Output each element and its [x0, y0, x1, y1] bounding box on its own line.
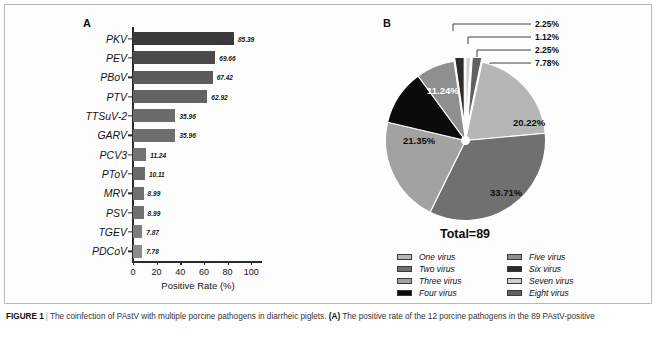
bar-row: PEV69.66 — [133, 48, 257, 67]
bar-category-label: PToV — [102, 168, 127, 180]
x-axis-tick — [204, 261, 205, 265]
bar-value-label: 11.24 — [150, 151, 166, 158]
bar-chart-x-axis — [132, 261, 262, 263]
legend-item[interactable]: One virus — [397, 251, 502, 262]
bar-row: PBoV67.42 — [133, 68, 257, 87]
bar-category-label: PTV — [107, 91, 127, 103]
bar-row: PDCoV7.78 — [133, 242, 257, 261]
bar-category-label: GARV — [97, 129, 127, 141]
bar-value-label: 67.42 — [217, 74, 233, 81]
x-axis-tick-label: 20 — [152, 267, 162, 277]
x-axis-tick-label: 80 — [223, 267, 233, 277]
bar-value-label: 35.96 — [179, 132, 195, 139]
bar-value-label: 7.78 — [146, 248, 159, 255]
bar-row: TTSuV-235.96 — [133, 106, 257, 125]
bar-row: PCV311.24 — [133, 145, 257, 164]
legend-label: Two virus — [419, 264, 455, 274]
legend-label: Three virus — [419, 276, 462, 286]
x-axis-tick — [180, 261, 181, 265]
pie-total-label: Total=89 — [440, 227, 490, 241]
panel-b-letter: B — [383, 17, 391, 29]
legend-item[interactable]: Six virus — [507, 263, 612, 274]
legend-swatch — [397, 254, 412, 260]
pie-slice-percent: 33.71% — [490, 187, 522, 198]
bar-category-label: TTSuV-2 — [85, 110, 127, 122]
bar — [133, 187, 144, 200]
legend-item[interactable]: Two virus — [397, 263, 502, 274]
caption-part-a-label: (A) — [329, 312, 340, 321]
bar-row: MRV8.99 — [133, 184, 257, 203]
bar-row: PTV62.92 — [133, 87, 257, 106]
bar-value-label: 7.87 — [146, 228, 159, 235]
caption-part-a-text: The positive rate of the 12 porcine path… — [342, 312, 594, 321]
bar — [133, 245, 142, 258]
pie-callout-label: 2.25% — [535, 19, 559, 29]
bar — [133, 148, 146, 161]
bar — [133, 167, 145, 180]
legend-item[interactable]: Eight virus — [507, 287, 612, 298]
figure-caption: FIGURE 1|The coinfection of PAstV with m… — [6, 312, 646, 322]
x-axis-tick-label: 40 — [175, 267, 185, 277]
pie-callout-leader-line — [477, 50, 531, 57]
x-axis-tick-label: 100 — [244, 267, 259, 277]
bar-chart-x-axis-label: Positive Rate (%) — [161, 280, 234, 291]
pie-slice-percent: 20.22% — [513, 117, 545, 128]
pie-legend: One virusFive virusTwo virusSix virusThr… — [397, 251, 612, 298]
bar — [133, 32, 234, 45]
x-axis-tick-label: 60 — [199, 267, 209, 277]
pie-center-hub — [461, 136, 470, 145]
bar-value-label: 69.66 — [219, 54, 235, 61]
legend-label: Seven virus — [529, 276, 573, 286]
caption-label: FIGURE 1 — [6, 312, 44, 321]
legend-label: Five virus — [529, 252, 565, 262]
bar-row: PSV8.99 — [133, 203, 257, 222]
pie-callout-label: 2.25% — [535, 45, 559, 55]
panel-a-bar-chart: A PKV85.39PEV69.66PBoV67.42PTV62.92TTSuV… — [5, 5, 335, 305]
x-axis-tick — [251, 261, 252, 265]
bar — [133, 71, 213, 84]
x-axis-tick — [157, 261, 158, 265]
legend-label: Six virus — [529, 264, 561, 274]
bar-category-label: PCV3 — [100, 149, 127, 161]
bar-category-label: PKV — [106, 33, 127, 45]
legend-swatch — [507, 266, 522, 272]
legend-swatch — [507, 290, 522, 296]
legend-label: One virus — [419, 252, 455, 262]
legend-label: Eight virus — [529, 288, 569, 298]
legend-item[interactable]: Four virus — [397, 287, 502, 298]
legend-item[interactable]: Five virus — [507, 251, 612, 262]
bar-value-label: 10.11 — [149, 170, 165, 177]
pie-callout-label: 7.78% — [535, 58, 559, 68]
legend-item[interactable]: Seven virus — [507, 275, 612, 286]
panel-b-pie-chart: B 20.22%33.71%21.35%11.24% 2.25%1.12%2.2… — [335, 5, 653, 305]
legend-item[interactable]: Three virus — [397, 275, 502, 286]
bar — [133, 90, 207, 103]
bar-category-label: PDCoV — [92, 245, 127, 257]
bar-row: GARV35.96 — [133, 126, 257, 145]
legend-swatch — [397, 278, 412, 284]
bar-category-label: PSV — [106, 207, 127, 219]
bar-row: PKV85.39 — [133, 29, 257, 48]
x-axis-tick-label: 0 — [130, 267, 135, 277]
x-axis-tick — [228, 261, 229, 265]
bar-category-label: PBoV — [100, 71, 127, 83]
bar — [133, 129, 175, 142]
pie-callout-label: 1.12% — [535, 32, 559, 42]
bar-value-label: 85.39 — [238, 35, 254, 42]
bar-value-label: 62.92 — [211, 93, 227, 100]
legend-swatch — [507, 278, 522, 284]
bar-value-label: 35.96 — [179, 112, 195, 119]
pie-slice-percent: 21.35% — [403, 135, 435, 146]
bar-row: PToV10.11 — [133, 164, 257, 183]
pie-callout-leader-line — [468, 37, 531, 44]
legend-label: Four virus — [419, 288, 457, 298]
x-axis-tick — [133, 261, 134, 265]
caption-main-text: The coinfection of PAstV with multiple p… — [50, 312, 327, 321]
panel-a-letter: A — [83, 17, 91, 29]
legend-swatch — [397, 266, 412, 272]
bar-row: TGEV7.87 — [133, 222, 257, 241]
bar-category-label: PEV — [106, 52, 127, 64]
bar-category-label: MRV — [104, 187, 127, 199]
bar-value-label: 8.99 — [148, 190, 161, 197]
pie-callout-leader-line — [453, 24, 531, 31]
